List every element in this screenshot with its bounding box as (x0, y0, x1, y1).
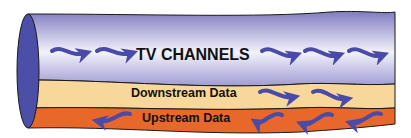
downstream-data-label: Downstream Data (131, 86, 238, 100)
cable-end-cap (17, 14, 39, 128)
cable-diagram: TV CHANNELS Downstream Data Upstream Dat… (0, 0, 411, 138)
upstream-data-label: Upstream Data (142, 111, 231, 125)
tv-channels-label: TV CHANNELS (136, 46, 250, 63)
